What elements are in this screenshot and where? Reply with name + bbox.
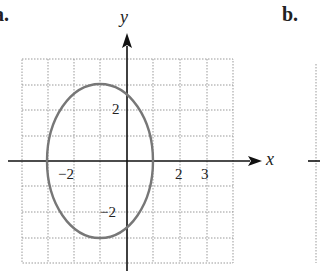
y-axis-label: y <box>120 8 128 26</box>
panel-a-label: a. <box>0 4 9 24</box>
xtick-3: 3 <box>201 167 209 182</box>
ytick-neg2: −2 <box>100 205 116 220</box>
y-axis-arrow-icon <box>122 33 132 48</box>
panel-b-label: b. <box>282 4 298 24</box>
xtick-2: 2 <box>175 167 183 182</box>
ellipse-chart <box>0 0 320 271</box>
x-axis-arrow-icon <box>248 156 262 166</box>
xtick-neg2: −2 <box>58 167 74 182</box>
ytick-2: 2 <box>112 102 120 117</box>
x-axis-label: x <box>266 150 274 168</box>
